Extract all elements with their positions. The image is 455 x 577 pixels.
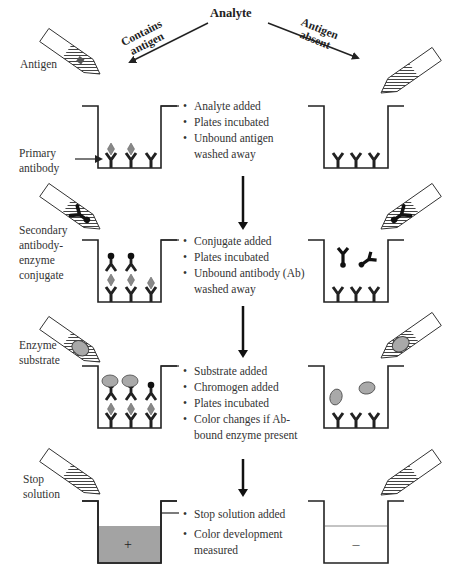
label-stop-solution: Stop solution — [23, 472, 60, 502]
antigen-icon — [128, 274, 135, 286]
label-line: solution — [23, 487, 60, 502]
antibody-shape — [369, 287, 379, 302]
antibody-shape — [126, 387, 136, 400]
pipette-icon — [381, 312, 441, 358]
label-line: Primary — [19, 146, 59, 161]
antigen-icon — [128, 143, 135, 155]
primary-antibody-icon — [333, 153, 343, 168]
bullet-item: Plates incubated — [183, 395, 305, 411]
secondary-antibody-icon — [146, 382, 156, 400]
label-line: conjugate — [19, 268, 68, 283]
step-4-bullets: Stop solution added Color development me… — [183, 506, 305, 558]
antibody-shape — [369, 413, 379, 428]
pipette-icon — [381, 449, 441, 495]
antibody-shape — [126, 287, 136, 302]
free-conjugate-icon — [338, 248, 348, 268]
primary-antibody-icon — [333, 413, 343, 428]
antibody-shape — [146, 153, 156, 168]
label-enzyme-substrate: Enzyme substrate — [19, 338, 60, 368]
step-arrowhead-1 — [238, 222, 248, 230]
enzyme-dot — [148, 382, 155, 389]
enzyme-dot — [108, 253, 115, 260]
pipette-fluid — [63, 465, 100, 494]
secondary-antibody-icon — [126, 253, 136, 271]
analyte-title: Analyte — [210, 6, 252, 21]
bullet-item: Unbound antibody (Ab) washed away — [183, 265, 305, 297]
label-line: substrate — [19, 353, 60, 368]
primary-antibody-icon — [333, 287, 343, 302]
antigen-icon — [108, 403, 115, 415]
step-arrowhead-3 — [238, 489, 248, 497]
bullet-item: Color changes if Ab-bound enzyme present — [183, 411, 305, 443]
pipette-fluid — [381, 64, 418, 93]
secondary-antibody-icon — [106, 253, 116, 271]
primary-antibody-icon — [351, 413, 361, 428]
antibody-shape — [106, 287, 116, 302]
antigen-icon — [108, 143, 115, 155]
bullet-item: Color development measured — [183, 526, 305, 558]
enzyme-dot — [128, 253, 135, 260]
bullet-item: Plates incubated — [183, 114, 303, 130]
primary-antibody-icon — [146, 153, 156, 168]
primary-antibody-icon — [369, 413, 379, 428]
antibody-shape — [126, 258, 136, 271]
label-secondary-conjugate: Secondary antibody- enzyme conjugate — [19, 223, 68, 283]
substrate-icon — [358, 381, 376, 396]
bullet-item: Analyte added — [183, 98, 303, 114]
bullet-item: Substrate added — [183, 363, 305, 379]
substrate-icon — [328, 388, 344, 407]
pipette-fluid — [381, 466, 418, 495]
label-line: antibody — [19, 161, 59, 176]
label-line: antibody- — [19, 238, 68, 253]
antibody-shape — [369, 153, 379, 168]
negative-result-symbol: – — [352, 537, 361, 552]
primary-antibody-icon — [126, 287, 136, 302]
primary-antibody-icon — [106, 287, 116, 302]
primary-antibody-icon — [369, 153, 379, 168]
step-arrowhead-2 — [238, 350, 248, 358]
antibody-shape — [106, 387, 116, 400]
antibody-shape — [351, 287, 361, 302]
bullet-item: Conjugate added — [183, 233, 305, 249]
antibody-shape — [351, 413, 361, 428]
bullet-item: Unbound antigen washed away — [183, 130, 303, 162]
antibody-shape — [333, 413, 343, 428]
primary-antibody-icon — [351, 153, 361, 168]
antibody-shape — [333, 153, 343, 168]
label-primary-antibody: Primary antibody — [19, 146, 59, 176]
primary-antibody-icon — [369, 287, 379, 302]
substrate-icon — [122, 375, 138, 387]
free-conjugate-icon — [356, 252, 376, 270]
step-3-bullets: Substrate added Chromogen added Plates i… — [183, 363, 305, 443]
primary-antibody-icon — [351, 287, 361, 302]
step-2-bullets: Conjugate added Plates incubated Unbound… — [183, 233, 305, 297]
antigen-icon — [108, 274, 115, 286]
antigen-icon — [128, 403, 135, 415]
antibody-shape — [106, 258, 116, 271]
label-line: enzyme — [19, 253, 68, 268]
label-antigen: Antigen — [20, 57, 57, 72]
bullet-item: Chromogen added — [183, 379, 305, 395]
label-line: Enzyme — [19, 338, 60, 353]
bullet-item: Stop solution added — [183, 506, 305, 522]
substrate-icon — [102, 375, 118, 387]
antigen-icon — [148, 403, 155, 415]
well-negative-step-4 — [308, 501, 404, 563]
antibody-shape — [338, 248, 348, 264]
antigen-icon — [148, 277, 155, 289]
step-1-bullets: Analyte added Plates incubated Unbound a… — [183, 98, 303, 162]
antibody-shape — [333, 287, 343, 302]
pipette-icon — [381, 183, 441, 229]
label-line: Secondary — [19, 223, 68, 238]
positive-result-symbol: + — [124, 537, 132, 552]
bullet-item: Plates incubated — [183, 249, 305, 265]
enzyme-dot — [340, 262, 346, 268]
label-line: Stop — [23, 472, 60, 487]
antibody-shape — [351, 153, 361, 168]
antibody-shape — [146, 387, 156, 400]
pipette-icon — [381, 47, 441, 93]
